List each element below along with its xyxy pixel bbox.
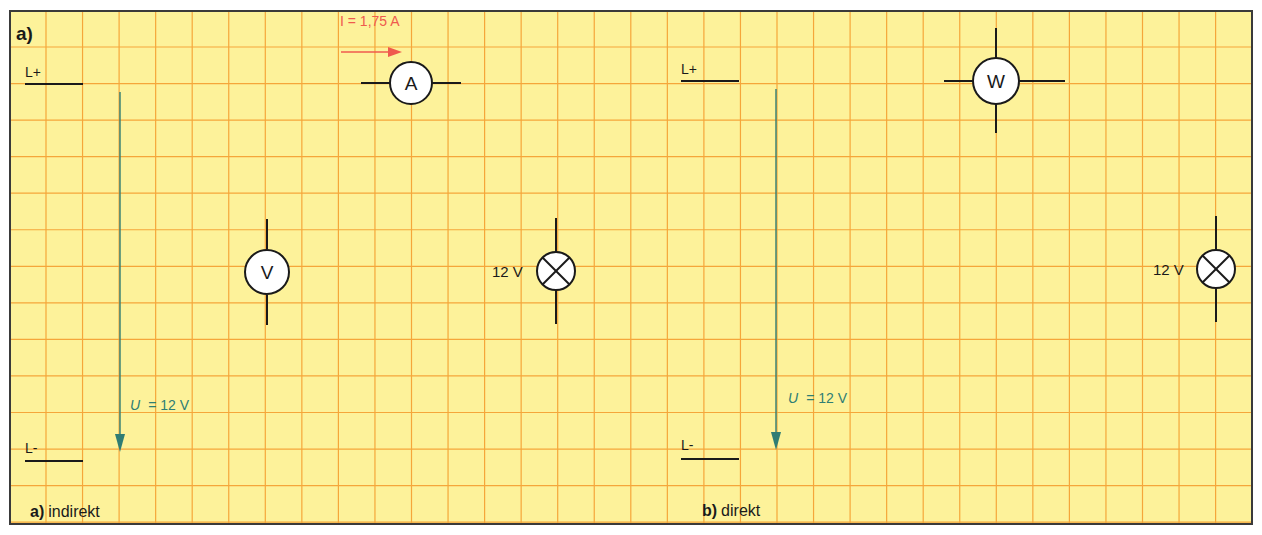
voltage-value: = 12 V: [806, 390, 848, 406]
caption-text: direkt: [721, 502, 761, 519]
voltage-value: = 12 V: [148, 397, 190, 413]
caption-b: b)direkt: [702, 502, 761, 519]
caption-letter: b): [702, 502, 717, 519]
rail-plus-label: L+: [25, 64, 41, 80]
lamp-rating-label: 12 V: [1153, 261, 1184, 278]
rail-minus-label: L-: [681, 437, 694, 453]
caption-text: indirekt: [48, 503, 100, 520]
circuit-worksheet: a) L+ L- U= 12 V I = 1,75 A A: [0, 0, 1262, 535]
ammeter-symbol: A: [405, 73, 418, 94]
caption-letter: a): [30, 503, 44, 520]
wattmeter-symbol: W: [987, 71, 1005, 92]
voltmeter-symbol: V: [261, 262, 274, 283]
corner-label: a): [16, 23, 33, 44]
current-label: I = 1,75 A: [340, 13, 400, 29]
voltage-symbol: U: [130, 397, 141, 413]
voltage-label: U= 12 V: [788, 390, 848, 406]
rail-minus-label: L-: [25, 440, 38, 456]
rail-plus-label: L+: [681, 61, 697, 77]
lamp-rating-label: 12 V: [492, 263, 523, 280]
voltage-label: U= 12 V: [130, 397, 190, 413]
caption-a: a)indirekt: [30, 503, 100, 520]
voltage-symbol: U: [788, 390, 799, 406]
